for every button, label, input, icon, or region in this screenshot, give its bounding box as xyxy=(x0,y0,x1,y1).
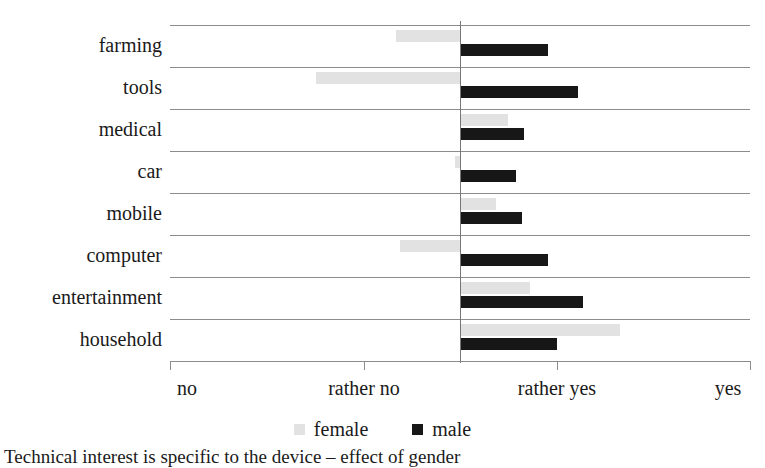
y-axis-label-tools: tools xyxy=(2,77,162,97)
bar-male-computer xyxy=(460,254,548,266)
x-axis-label-rather-yes: rather yes xyxy=(518,377,596,399)
x-axis-tick-rather-yes xyxy=(557,361,558,370)
bar-male-medical xyxy=(460,128,524,140)
legend-swatch-male-icon xyxy=(412,424,423,435)
bar-female-entertainment xyxy=(460,282,530,294)
x-axis-tick-rather-no xyxy=(364,361,365,370)
bar-female-tools xyxy=(316,72,460,84)
bar-male-entertainment xyxy=(460,296,583,308)
legend-label-male: male xyxy=(432,418,471,440)
y-axis-label-entertainment: entertainment xyxy=(2,287,162,307)
x-axis-label-yes: yes xyxy=(715,377,742,399)
y-axis-label-car: car xyxy=(2,161,162,181)
y-axis-label-computer: computer xyxy=(2,245,162,265)
legend-item-male: male xyxy=(412,418,471,440)
legend-item-female: female xyxy=(294,418,368,440)
bar-female-medical xyxy=(460,114,508,126)
chart-legend: female male xyxy=(0,415,765,443)
bar-male-tools xyxy=(460,86,578,98)
zero-reference-line xyxy=(460,21,461,363)
figure-caption: Technical interest is specific to the de… xyxy=(4,446,761,468)
bar-male-mobile xyxy=(460,212,522,224)
bar-female-household xyxy=(460,324,620,336)
y-axis-category-labels: farming tools medical car mobile compute… xyxy=(0,25,162,361)
x-axis-label-rather-no: rather no xyxy=(328,377,400,399)
y-axis-label-farming: farming xyxy=(2,35,162,55)
y-axis-label-medical: medical xyxy=(2,119,162,139)
x-axis-tick-no xyxy=(170,361,171,370)
y-axis-label-mobile: mobile xyxy=(2,203,162,223)
x-axis-line xyxy=(170,361,750,362)
plot-area xyxy=(170,25,750,361)
bar-female-computer xyxy=(400,240,460,252)
bar-male-farming xyxy=(460,44,548,56)
bar-female-mobile xyxy=(460,198,496,210)
legend-label-female: female xyxy=(314,418,368,440)
legend-swatch-female-icon xyxy=(294,424,305,435)
bar-female-farming xyxy=(396,30,460,42)
bar-male-household xyxy=(460,338,557,350)
bar-male-car xyxy=(460,170,516,182)
x-axis-tick-yes xyxy=(750,361,751,370)
x-axis-label-no: no xyxy=(177,377,197,399)
y-axis-label-household: household xyxy=(2,329,162,349)
